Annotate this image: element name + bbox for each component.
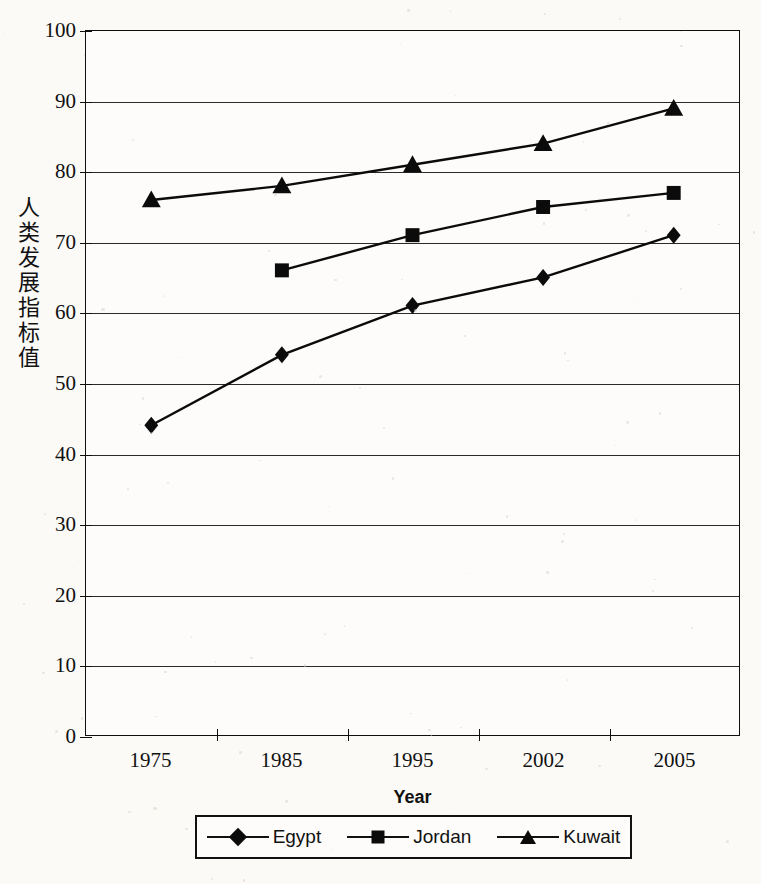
series-marker-jordan: [275, 263, 289, 277]
scan-speck: [359, 387, 361, 389]
series-marker-egypt: [536, 269, 550, 286]
scan-speck: [274, 193, 276, 195]
scan-speck: [546, 571, 548, 573]
series-line-kuwait: [151, 108, 673, 200]
scan-speck: [680, 45, 683, 48]
plot-area: [85, 30, 740, 736]
scan-speck: [153, 807, 156, 810]
scan-speck: [127, 488, 129, 490]
scan-speck: [185, 828, 188, 831]
scan-speck: [544, 13, 546, 15]
scan-speck: [626, 421, 629, 424]
x-tick-label: 1975: [106, 748, 196, 773]
scan-speck: [652, 590, 654, 592]
y-axis-tick-labels: 0102030405060708090100: [8, 30, 76, 736]
legend-item-egypt[interactable]: Egypt: [207, 826, 322, 848]
x-tick-label: 1995: [368, 748, 458, 773]
scan-speck: [567, 679, 568, 680]
x-axis-tick-labels: 19751985199520022005: [85, 748, 740, 778]
scan-speck: [691, 627, 692, 628]
scan-speck: [506, 515, 508, 517]
scan-speck: [428, 729, 431, 732]
scan-speck: [450, 10, 451, 11]
diamond-marker: [228, 828, 246, 846]
series-line-jordan: [282, 193, 674, 270]
y-tick-label: 30: [16, 512, 76, 537]
legend-sample: [347, 828, 409, 846]
y-tick-label: 70: [16, 229, 76, 254]
scan-speck: [539, 286, 540, 287]
scan-speck: [239, 751, 242, 754]
scan-speck: [414, 309, 417, 312]
scan-speck: [598, 765, 601, 768]
y-tick-label: 60: [16, 300, 76, 325]
scan-speck: [211, 878, 213, 880]
x-tick-label: 1985: [237, 748, 327, 773]
series-marker-jordan: [406, 228, 420, 242]
scan-speck: [101, 308, 104, 311]
scan-speck: [128, 811, 130, 813]
legend-item-jordan[interactable]: Jordan: [347, 826, 471, 848]
series-marker-egypt: [275, 346, 289, 363]
scan-speck: [151, 432, 152, 433]
scan-speck: [57, 773, 58, 774]
x-axis-title: Year: [85, 787, 740, 808]
scan-speck: [726, 840, 729, 843]
series-marker-kuwait: [664, 99, 683, 116]
scan-speck: [268, 250, 269, 251]
y-tick-label: 10: [16, 653, 76, 678]
series-marker-jordan: [667, 186, 681, 200]
scan-speck: [619, 18, 621, 20]
y-tick-mark: [80, 737, 92, 738]
scan-speck: [81, 717, 83, 719]
scan-speck: [753, 231, 756, 234]
y-tick-label: 20: [16, 582, 76, 607]
y-tick-label: 40: [16, 441, 76, 466]
chart-legend: EgyptJordanKuwait: [195, 815, 632, 859]
series-marker-jordan: [536, 200, 550, 214]
y-tick-label: 90: [16, 88, 76, 113]
scan-speck: [607, 122, 610, 125]
scan-speck: [132, 139, 134, 141]
series-layer: [86, 31, 739, 735]
square-marker: [372, 831, 385, 844]
series-marker-egypt: [406, 297, 420, 314]
series-marker-egypt: [667, 227, 681, 244]
scan-speck: [561, 540, 564, 543]
legend-label: Kuwait: [563, 826, 620, 848]
x-tick-label: 2002: [499, 748, 589, 773]
legend-sample: [207, 828, 269, 846]
triangle-marker: [520, 830, 536, 844]
legend-sample: [497, 828, 559, 846]
scan-speck: [407, 9, 410, 12]
scan-speck: [659, 412, 661, 414]
legend-item-kuwait[interactable]: Kuwait: [497, 826, 620, 848]
y-tick-label: 80: [16, 159, 76, 184]
legend-label: Egypt: [273, 826, 322, 848]
scan-speck: [450, 813, 451, 814]
y-tick-label: 0: [16, 724, 76, 749]
series-line-egypt: [151, 235, 673, 425]
y-tick-label: 50: [16, 371, 76, 396]
x-tick-label: 2005: [630, 748, 720, 773]
scan-speck: [259, 460, 261, 462]
scan-speck: [464, 335, 465, 336]
chart-page: 人类发展指标值 0102030405060708090100 197519851…: [0, 0, 761, 884]
scan-speck: [167, 482, 169, 484]
scan-speck: [243, 879, 245, 881]
scan-speck: [139, 424, 140, 425]
scan-speck: [3, 33, 4, 34]
y-tick-label: 100: [16, 18, 76, 43]
legend-label: Jordan: [413, 826, 471, 848]
scan-speck: [383, 427, 385, 429]
scan-speck: [250, 657, 252, 659]
